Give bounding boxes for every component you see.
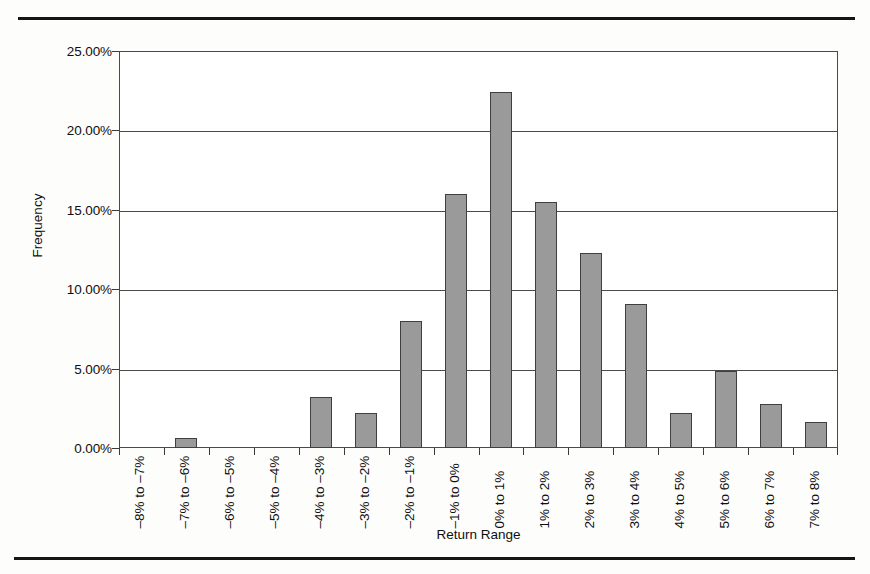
y-axis-tick-labels: 0.00%5.00%10.00%15.00%20.00%25.00% xyxy=(0,51,112,448)
y-tick-mark xyxy=(112,369,119,370)
x-tick-label-cell: 3% to 4% xyxy=(613,452,658,530)
x-tick-label: 3% to 4% xyxy=(627,470,641,528)
bar xyxy=(535,202,557,448)
bar xyxy=(715,371,737,448)
bar xyxy=(760,404,782,448)
x-tick-label: 7% to 8% xyxy=(807,470,821,528)
bar-cell xyxy=(434,51,479,448)
bar-cell xyxy=(299,51,344,448)
y-tick-label: 0.00% xyxy=(74,441,112,456)
top-horizontal-rule xyxy=(18,17,855,20)
y-tick-label: 15.00% xyxy=(67,202,112,217)
x-tick-label: –1% to 0% xyxy=(448,463,462,528)
bar xyxy=(355,413,377,448)
y-tick-mark xyxy=(112,289,119,290)
bar-cell xyxy=(703,51,748,448)
y-tick-mark xyxy=(112,210,119,211)
bar-cell xyxy=(658,51,703,448)
bottom-horizontal-rule xyxy=(14,557,855,560)
x-tick-label: –3% to –2% xyxy=(358,455,372,528)
x-tick-label-cell: 2% to 3% xyxy=(568,452,613,530)
x-tick-label: 4% to 5% xyxy=(672,470,686,528)
x-tick-label: 1% to 2% xyxy=(537,470,551,528)
x-tick-label-cell: –6% to –5% xyxy=(209,452,254,530)
x-tick-label-cell: 4% to 5% xyxy=(658,452,703,530)
bar xyxy=(805,422,827,448)
bar-cell xyxy=(568,51,613,448)
bar xyxy=(625,304,647,449)
x-axis-tick-labels: –8% to –7%–7% to –6%–6% to –5%–5% to –4%… xyxy=(119,452,838,530)
bar xyxy=(670,413,692,448)
x-tick-label-cell: –3% to –2% xyxy=(344,452,389,530)
x-tick-label: 6% to 7% xyxy=(762,470,776,528)
bar xyxy=(490,92,512,448)
bar-cell xyxy=(209,51,254,448)
x-tick-label: 0% to 1% xyxy=(492,470,506,528)
x-tick-label: –5% to –4% xyxy=(268,455,282,528)
y-tick-label: 25.00% xyxy=(67,44,112,59)
bar-cell xyxy=(523,51,568,448)
bar xyxy=(445,194,467,448)
x-tick-label: –7% to –6% xyxy=(178,455,192,528)
x-tick-label-cell: –5% to –4% xyxy=(254,452,299,530)
bar-series xyxy=(119,51,838,448)
x-tick-label-cell: 7% to 8% xyxy=(793,452,838,530)
x-tick-label-cell: –2% to –1% xyxy=(389,452,434,530)
x-tick-label: 2% to 3% xyxy=(582,470,596,528)
bar-cell xyxy=(344,51,389,448)
bar xyxy=(310,397,332,448)
figure-page: 0.00%5.00%10.00%15.00%20.00%25.00% Frequ… xyxy=(0,0,870,574)
x-tick-label-cell: –8% to –7% xyxy=(119,452,164,530)
y-tick-mark xyxy=(112,51,119,52)
y-axis-title: Frequency xyxy=(30,166,45,286)
x-tick-label-cell: –7% to –6% xyxy=(164,452,209,530)
x-tick-label: –8% to –7% xyxy=(133,455,147,528)
x-tick-label: –4% to –3% xyxy=(313,455,327,528)
bar xyxy=(175,438,197,448)
y-tick-label: 20.00% xyxy=(67,123,112,138)
x-tick-label: –2% to –1% xyxy=(403,455,417,528)
x-tick-label-cell: 6% to 7% xyxy=(748,452,793,530)
bar-cell xyxy=(389,51,434,448)
bar-cell xyxy=(748,51,793,448)
bar-cell xyxy=(254,51,299,448)
x-tick-label-cell: –1% to 0% xyxy=(434,452,479,530)
y-tick-label: 10.00% xyxy=(67,282,112,297)
y-tick-mark xyxy=(112,448,119,449)
bar-cell xyxy=(119,51,164,448)
bar xyxy=(580,253,602,448)
bar xyxy=(400,321,422,448)
x-axis-title: Return Range xyxy=(119,527,838,542)
x-tick-label-cell: 0% to 1% xyxy=(479,452,524,530)
bar-cell xyxy=(613,51,658,448)
bar-cell xyxy=(479,51,524,448)
y-tick-label: 5.00% xyxy=(74,361,112,376)
x-tick-label-cell: 1% to 2% xyxy=(523,452,568,530)
x-tick-label: 5% to 6% xyxy=(717,470,731,528)
bar-cell xyxy=(793,51,838,448)
x-tick-label-cell: 5% to 6% xyxy=(703,452,748,530)
bar-cell xyxy=(164,51,209,448)
x-tick-label-cell: –4% to –3% xyxy=(299,452,344,530)
x-tick-label: –6% to –5% xyxy=(223,455,237,528)
y-tick-mark xyxy=(112,130,119,131)
